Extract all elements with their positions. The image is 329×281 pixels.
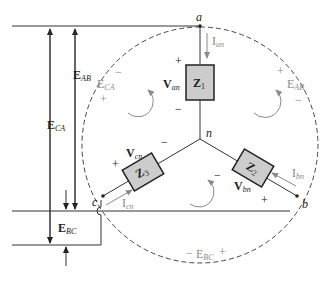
node-a-dot [198, 24, 202, 28]
node-n-label: n [206, 127, 212, 139]
eca-inner-label: ECA [97, 78, 115, 92]
loop-arrow-bc [190, 180, 214, 207]
loop-arrow-ab [254, 90, 281, 117]
ebc-inner-plus: + [219, 246, 226, 258]
ebc-inner-minus: − [186, 247, 193, 259]
loop-arrow-ca [128, 90, 153, 117]
line-c [12, 200, 101, 245]
vcn-minus: − [161, 136, 168, 148]
z1-label: Z1 [193, 77, 205, 91]
van-minus: − [175, 103, 182, 115]
vbn-plus: + [261, 194, 268, 206]
eab-inner-label: EAB [287, 78, 304, 92]
node-b-label: b [302, 198, 308, 210]
eab-inner-plus: + [277, 65, 284, 77]
icn-label: Icn [122, 197, 134, 211]
ibn-label: Ibn [292, 167, 304, 181]
vcn-plus: + [112, 158, 119, 170]
node-a-label: a [196, 11, 202, 23]
van-plus: + [175, 55, 182, 67]
ian-label: Ian [212, 35, 224, 49]
van-label: Van [163, 78, 180, 92]
eca-outer-label: ECA [47, 119, 65, 133]
eab-inner-minus: − [295, 94, 302, 106]
vcn-label: Vcn [126, 147, 142, 161]
node-c-dot [101, 194, 105, 198]
ebc-outer-label: EBC [58, 222, 76, 236]
vbn-label: Vbn [234, 180, 251, 194]
vbn-minus: − [214, 169, 221, 181]
eca-inner-plus: + [100, 93, 107, 105]
eab-outer-label: EAB [73, 69, 91, 83]
eca-inner-minus: − [115, 66, 122, 78]
node-c-label: c [92, 196, 97, 208]
node-b-dot [295, 194, 299, 198]
ebc-inner-label: EBC [196, 248, 214, 262]
